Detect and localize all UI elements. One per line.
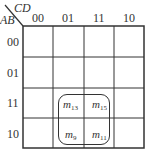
minterm-m9: m9 — [65, 129, 76, 142]
col-label-11: 11 — [93, 12, 105, 24]
col-label-01: 01 — [62, 12, 74, 24]
row-label-00: 00 — [7, 36, 19, 48]
minterm-m13: m13 — [63, 99, 78, 112]
col-label-10: 10 — [123, 12, 135, 24]
minterm-m11: m11 — [92, 129, 107, 142]
col-label-00: 00 — [32, 12, 44, 24]
row-label-11: 11 — [7, 97, 19, 109]
row-label-10: 10 — [7, 128, 19, 140]
minterm-m15: m15 — [92, 99, 107, 112]
col-var-label: CD — [14, 2, 31, 14]
row-label-01: 01 — [7, 67, 19, 79]
row-var-label: AB — [0, 14, 15, 26]
